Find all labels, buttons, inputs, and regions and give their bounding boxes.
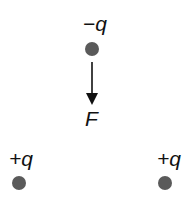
bottom-left-charge-dot <box>12 176 26 190</box>
force-label: F <box>85 108 98 129</box>
bottom-left-charge-label: +q <box>9 148 33 169</box>
top-charge-label: −q <box>83 13 107 34</box>
force-arrow-icon <box>84 60 100 108</box>
bottom-right-charge-dot <box>158 176 172 190</box>
bottom-right-charge-label: +q <box>157 148 181 169</box>
top-charge-dot <box>85 42 99 56</box>
